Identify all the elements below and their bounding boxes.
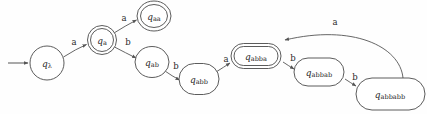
edge-label-t7: b [352, 72, 358, 82]
edge-label-t2: a [121, 13, 126, 23]
edge-q-ab-to-q-abb [165, 71, 180, 80]
edge-q-abb-to-q-abba [216, 63, 230, 72]
edge-label-t1: a [71, 37, 76, 47]
edge-label-t6: b [290, 53, 296, 63]
edge-q-abba-to-q-abbab [283, 62, 294, 69]
state-q-abba[interactable]: qabba [231, 44, 281, 69]
edge-label-t3: b [125, 37, 131, 47]
state-q-abbabb[interactable]: qabbabb [356, 78, 425, 110]
automaton-diagram-canvas: qλ qa qaa qab qabb qabba [0, 0, 427, 114]
state-q-aa[interactable]: qaa [137, 1, 171, 31]
edge-label-t4: b [173, 61, 179, 71]
state-q-lambda[interactable]: qλ [30, 46, 64, 80]
edge-label-t5: a [223, 54, 228, 64]
edge-label-t8: a [332, 17, 337, 27]
automaton-svg: qλ qa qaa qab qabb qabba [0, 0, 427, 114]
state-q-abb[interactable]: qabb [179, 64, 219, 95]
state-q-a[interactable]: qa [88, 26, 117, 55]
edge-q-a-to-q-ab [115, 47, 137, 58]
state-q-ab[interactable]: qab [135, 47, 169, 78]
state-q-abbab[interactable]: qabbab [294, 58, 344, 86]
